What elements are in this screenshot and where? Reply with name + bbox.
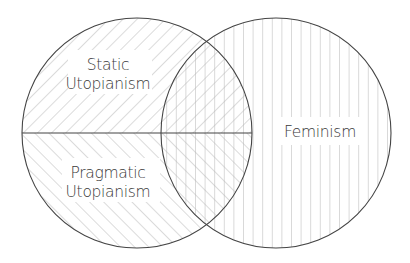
- svg-text:Static: Static: [87, 56, 130, 74]
- svg-text:Utopianism: Utopianism: [66, 75, 151, 93]
- svg-text:Pragmatic: Pragmatic: [70, 164, 145, 182]
- venn-diagram: Static Utopianism Pragmatic Utopianism F…: [0, 0, 410, 263]
- svg-text:Utopianism: Utopianism: [66, 183, 151, 201]
- pragmatic-utopianism-label-line1: Pragmatic: [70, 164, 145, 182]
- static-utopianism-label-line1: Static: [87, 56, 130, 74]
- feminism-label: Feminism: [284, 123, 356, 141]
- static-utopianism-label-line2: Utopianism: [66, 75, 151, 93]
- svg-text:Feminism: Feminism: [284, 123, 356, 141]
- pragmatic-utopianism-label-line2: Utopianism: [66, 183, 151, 201]
